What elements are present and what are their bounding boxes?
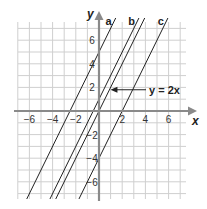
line-label-a: a bbox=[105, 15, 112, 27]
y-tick-label: 6 bbox=[89, 35, 95, 46]
series-line-a bbox=[27, 18, 116, 199]
x-tick-label: −2 bbox=[70, 114, 82, 125]
x-tick-label: 6 bbox=[166, 114, 172, 125]
coordinate-plane: −6−4−2246642−2−4−6 abcy = 2x x y bbox=[0, 0, 207, 209]
y-tick-label: −4 bbox=[86, 153, 98, 164]
x-tick-label: 2 bbox=[119, 114, 125, 125]
series-line-y2x bbox=[56, 18, 145, 199]
y-tick-label: −2 bbox=[86, 130, 98, 141]
x-tick-label: 4 bbox=[143, 114, 149, 125]
y-tick-label: 4 bbox=[89, 59, 95, 70]
y-axis-label: y bbox=[86, 7, 95, 21]
y-tick-label: 2 bbox=[89, 82, 95, 93]
line-label-b: b bbox=[128, 15, 135, 27]
line-group bbox=[27, 18, 168, 199]
line-labels: abcy = 2x bbox=[105, 15, 180, 96]
line-label-c: c bbox=[158, 15, 164, 27]
x-tick-label: −4 bbox=[47, 114, 59, 125]
y-axis-arrow-icon bbox=[95, 11, 104, 20]
y-tick-label: −6 bbox=[86, 177, 98, 188]
annotation-label: y = 2x bbox=[149, 84, 181, 96]
x-tick-label: −6 bbox=[24, 114, 36, 125]
x-axis-label: x bbox=[191, 114, 200, 128]
